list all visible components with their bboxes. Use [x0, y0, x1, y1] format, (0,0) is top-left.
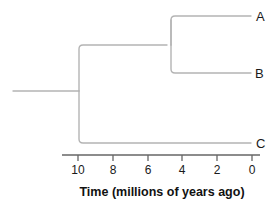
taxon-label-c: C	[256, 137, 265, 150]
axis-tick-label-2: 2	[214, 164, 221, 176]
node-ab-taxon-b-branch	[171, 45, 251, 73]
axis-tick-label-6: 6	[145, 164, 152, 176]
root-node-taxon-c-branch	[79, 91, 251, 143]
tree-drawing	[0, 0, 280, 216]
time-axis	[62, 155, 260, 161]
axis-tick-label-4: 4	[179, 164, 186, 176]
axis-tick-label-8: 8	[110, 164, 117, 176]
taxon-label-a: A	[256, 10, 265, 23]
phylogenetic-tree-figure: A B C 10 8 6 4 2 0 Time (millions of yea…	[0, 0, 280, 216]
branch-lines	[13, 16, 251, 143]
root-node-clade-ab-branch	[79, 45, 167, 91]
axis-tick-label-0: 0	[249, 164, 256, 176]
axis-title: Time (millions of years ago)	[79, 186, 244, 199]
node-ab-taxon-a-branch	[171, 16, 251, 45]
axis-tick-label-10: 10	[71, 164, 84, 176]
taxon-label-b: B	[255, 67, 264, 80]
